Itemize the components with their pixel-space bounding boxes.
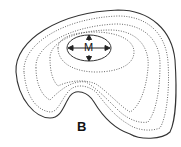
arrow-right-icon [105, 46, 110, 51]
arrow-left-icon [68, 46, 73, 51]
contour-lines [24, 16, 169, 130]
center-label: M [84, 41, 93, 53]
arrow-up-icon [87, 35, 92, 40]
figure-label: B [77, 119, 86, 134]
outer-outline [16, 10, 176, 138]
arrow-down-icon [87, 57, 92, 62]
diagram-canvas [0, 0, 181, 147]
